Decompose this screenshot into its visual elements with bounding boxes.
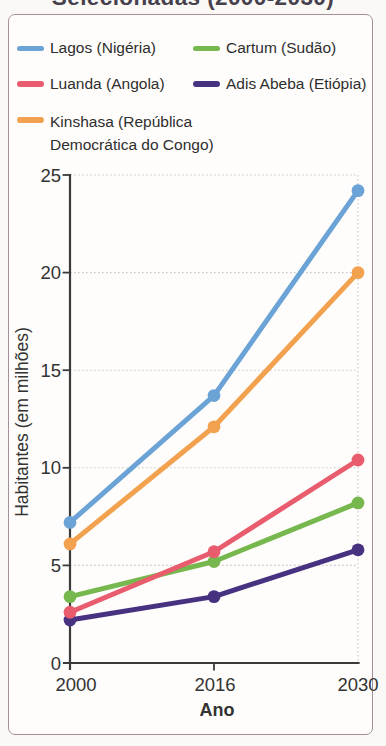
book-chart-page: Selecionadas (2000-2030) Lagos (Nigéria)… (0, 0, 386, 746)
data-point-marker (208, 420, 221, 433)
svg-text:25: 25 (40, 165, 61, 186)
data-point-marker (208, 590, 221, 603)
data-point-marker (208, 389, 221, 402)
data-point-marker (352, 266, 365, 279)
data-point-marker (352, 454, 365, 467)
x-axis-title: Ano (200, 700, 235, 720)
data-point-marker (64, 606, 77, 619)
svg-text:2016: 2016 (194, 674, 235, 695)
data-point-marker (352, 543, 365, 556)
data-point-marker (64, 516, 77, 529)
chart-svg: 0510152025200020162030AnoHabitantes (em … (0, 0, 386, 746)
svg-text:0: 0 (51, 653, 61, 674)
svg-text:2030: 2030 (337, 674, 378, 695)
svg-text:20: 20 (40, 262, 61, 283)
svg-text:10: 10 (40, 457, 61, 478)
data-point-marker (352, 497, 365, 510)
data-point-marker (64, 590, 77, 603)
y-axis-title: Habitantes (em milhões) (12, 327, 32, 517)
x-tick-labels: 200020162030 (55, 674, 378, 695)
data-point-marker (352, 184, 365, 197)
svg-text:2000: 2000 (55, 674, 96, 695)
svg-text:5: 5 (51, 555, 61, 576)
data-point-marker (208, 545, 221, 558)
svg-text:15: 15 (40, 360, 61, 381)
series-lagos-nigeria (64, 184, 365, 529)
data-point-marker (64, 538, 77, 551)
y-tick-labels: 0510152025 (40, 165, 61, 674)
series-kinshasa-republica-democratica-do-congo (64, 266, 365, 550)
